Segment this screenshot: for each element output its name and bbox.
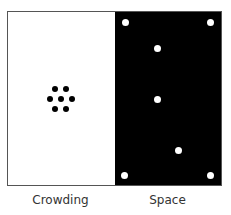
space-dot (154, 96, 161, 103)
crowding-dot (47, 96, 53, 102)
crowding-dot (52, 86, 58, 92)
crowding-dot (52, 106, 58, 112)
space-dot (154, 45, 161, 52)
space-dot (207, 172, 214, 179)
space-dot (175, 147, 182, 154)
space-label: Space (114, 193, 221, 207)
crowding-dot (63, 106, 69, 112)
space-panel (115, 12, 221, 185)
space-dot (122, 19, 129, 26)
figure-frame (7, 11, 222, 186)
crowding-dot (63, 86, 69, 92)
crowding-dot (69, 96, 75, 102)
crowding-dot (58, 96, 64, 102)
space-dot (207, 19, 214, 26)
crowding-label: Crowding (7, 193, 114, 207)
space-dot (121, 172, 128, 179)
